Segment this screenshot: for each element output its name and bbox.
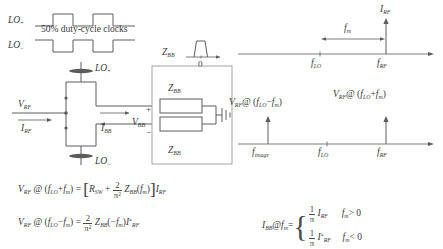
equation-vrf-lower-sideband: VRF @ (fLO−fm) = 2π2 ZBB(−fm)I*RF — [18, 214, 139, 232]
lo-minus-switch-label: LO− — [95, 157, 110, 168]
vrf-input-label: VRF — [18, 100, 31, 111]
spectrum-bottom-tick-fimage: fimage — [252, 148, 269, 159]
cases-body: 1π IRF fm> 0 1π I*RF fm< 0 — [309, 205, 362, 248]
fraction-two-over-pi-squared: 2π2 — [113, 181, 122, 199]
spectrum-top-plot — [238, 12, 438, 64]
equation-vrf-upper-sideband: VRF @ (fLO+fm) = [RSW + 2π2 ZBB(fm)]IRF — [18, 181, 166, 199]
spectrum-top-tick-frf: fRF — [377, 59, 387, 70]
lo-minus-label: LO− — [8, 41, 23, 52]
spectrum-bottom-plot — [238, 108, 438, 153]
cases-brace: { — [293, 211, 307, 241]
figure-canvas: LO+ LO− 50% duty-cycle clocks ZBB 0 — [0, 0, 443, 249]
zbb-top-label: ZBB — [168, 84, 180, 95]
fraction-two-over-pi-squared-2: 2π2 — [83, 214, 92, 232]
ibb-cases-lhs: IBB@fm= — [262, 221, 293, 232]
mixer-circuit-schematic — [4, 58, 236, 168]
irf-input-label: IRF — [21, 124, 31, 135]
vbb-minus-sign: − — [146, 128, 151, 137]
spectrum-top-tick-flo: fLO — [311, 59, 321, 70]
vrf-image-annotation: VRF@ (fLO−fm) — [229, 98, 282, 109]
lo-plus-label: LO+ — [8, 16, 23, 27]
fraction-one-over-pi-2: 1π — [309, 229, 315, 247]
vrf-rf-annotation: VRF@ (fLO+fm) — [333, 90, 386, 101]
ibb-case-negative: 1π I*RF fm< 0 — [309, 229, 362, 247]
ibb-case-positive: 1π IRF fm> 0 — [309, 205, 362, 223]
vbb-plus-sign: + — [146, 105, 151, 114]
irf-spectral-line-label: IRF — [380, 5, 390, 16]
ibb-label: IBB — [101, 124, 111, 135]
vbb-label: VBB — [132, 118, 145, 129]
spectrum-bottom-tick-frf: fRF — [377, 148, 387, 159]
spectrum-bottom-tick-flo: fLO — [318, 148, 328, 159]
fm-span-label: fm — [344, 24, 351, 35]
fraction-one-over-pi-1: 1π — [309, 205, 315, 223]
duty-cycle-caption: 50% duty-cycle clocks — [41, 25, 128, 35]
zbb-pulse-label: ZBB — [162, 48, 174, 59]
lo-plus-switch-label: LO+ — [95, 64, 110, 75]
equation-ibb-cases: IBB@fm= { 1π IRF fm> 0 1π I*RF fm< 0 — [262, 205, 362, 248]
zbb-bottom-label: ZBB — [168, 146, 180, 157]
